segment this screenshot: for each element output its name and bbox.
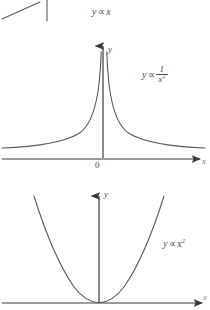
label-y-proportional-inverse-square: y∝ 1 x2: [142, 66, 168, 86]
graph-inverse-square: [0, 40, 210, 170]
label-y-proportional-x-squared: y∝x2: [163, 238, 186, 249]
fraction-denominator: x2: [156, 74, 168, 84]
denominator-exponent: 2: [163, 73, 166, 79]
proportionality-figure: y∝x y x 0 y∝ 1 x2: [0, 0, 210, 310]
linear-curve-segment: [2, 2, 40, 19]
origin-label-inverse-square: 0: [95, 160, 100, 170]
x-axis-label-square: x: [203, 292, 207, 302]
y-axis-label-inverse-square: y: [108, 44, 112, 54]
label-sq-prop: ∝: [168, 238, 177, 249]
fraction-one-over-x-squared: 1 x2: [156, 65, 168, 85]
label-inv-prop: ∝: [147, 69, 156, 80]
inverse-square-left-branch: [2, 52, 101, 148]
x-axis-label-inverse-square: x: [202, 156, 206, 166]
label-linear-prop: ∝: [97, 6, 106, 17]
label-sq-exponent: 2: [182, 237, 186, 244]
y-axis-label-square: y: [104, 189, 108, 199]
label-linear-expr: x: [106, 6, 111, 17]
label-y-proportional-x: y∝x: [92, 6, 111, 17]
